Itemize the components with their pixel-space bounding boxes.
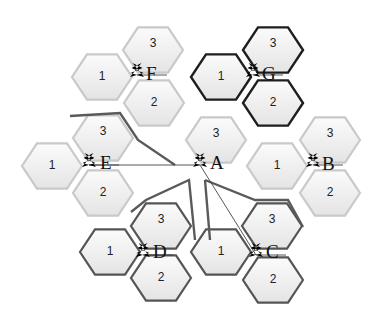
base-station-label-c: C bbox=[266, 241, 279, 262]
sector-label-e-2: 2 bbox=[100, 185, 107, 199]
base-station-label-d: D bbox=[153, 241, 167, 262]
sector-label-c-3: 3 bbox=[269, 212, 276, 226]
sector-label-e-3: 3 bbox=[100, 124, 107, 138]
cellular-diagram: 123F123G123E3A123B123D123C bbox=[0, 0, 382, 321]
sector-label-c-1: 1 bbox=[218, 244, 225, 258]
sector-label-b-2: 2 bbox=[327, 185, 334, 199]
base-station-label-e: E bbox=[100, 152, 112, 173]
sector-label-g-1: 1 bbox=[218, 69, 225, 83]
sector-label-b-3: 3 bbox=[327, 126, 334, 140]
base-station-label-a: A bbox=[210, 152, 224, 173]
sector-label-a-3: 3 bbox=[213, 126, 220, 140]
sector-label-g-2: 2 bbox=[270, 95, 277, 109]
base-station-label-g: G bbox=[262, 63, 276, 84]
sector-label-f-3: 3 bbox=[150, 36, 157, 50]
sector-label-e-1: 1 bbox=[49, 158, 56, 172]
sector-label-c-2: 2 bbox=[270, 272, 277, 286]
sector-label-f-1: 1 bbox=[99, 69, 106, 83]
base-station-label-b: B bbox=[322, 153, 335, 174]
sector-label-d-3: 3 bbox=[158, 212, 165, 226]
base-station-label-f: F bbox=[146, 63, 157, 84]
sector-label-d-1: 1 bbox=[107, 244, 114, 258]
sector-label-b-1: 1 bbox=[274, 158, 281, 172]
sector-label-d-2: 2 bbox=[158, 270, 165, 284]
sector-label-f-2: 2 bbox=[151, 95, 158, 109]
sector-label-g-3: 3 bbox=[270, 36, 277, 50]
